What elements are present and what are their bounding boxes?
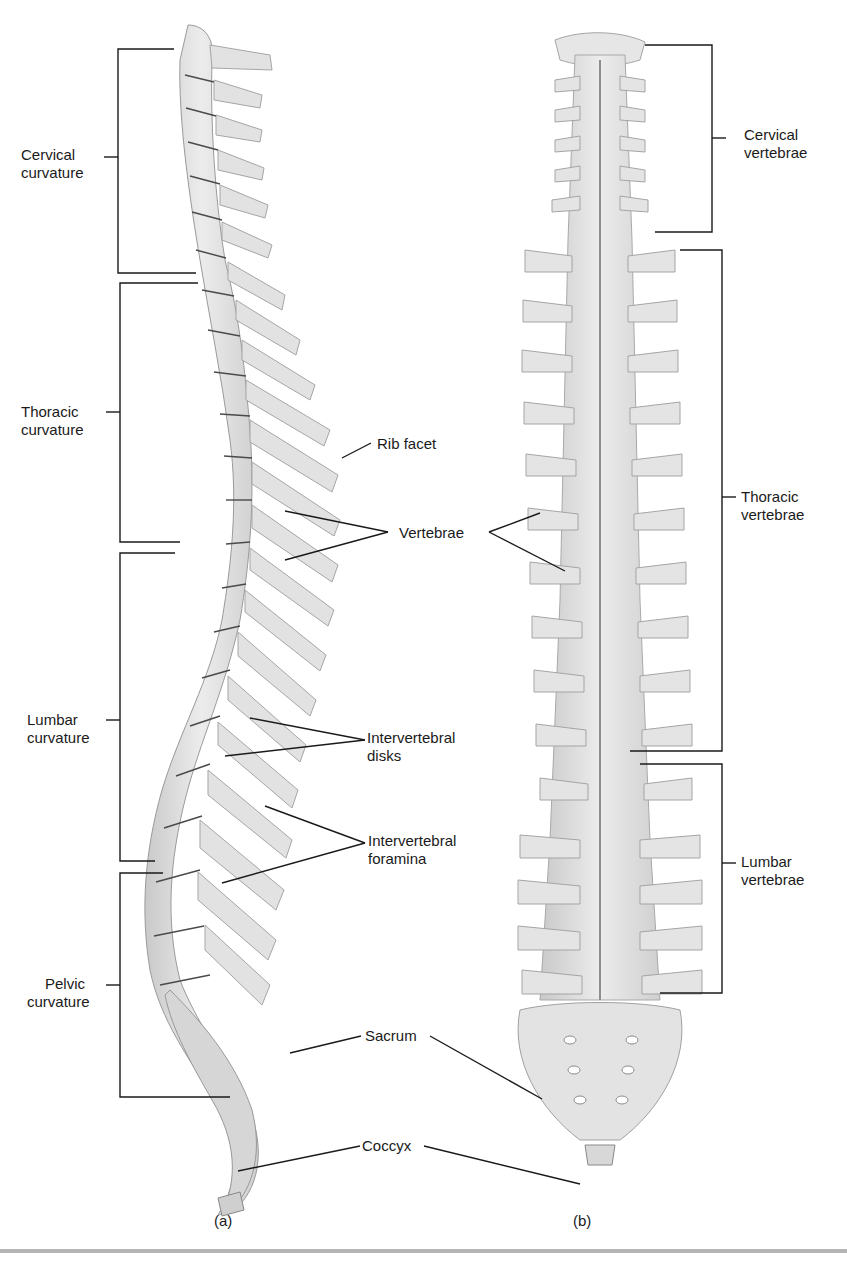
lateral-spine — [145, 25, 340, 1216]
label-line-1: Lumbar — [27, 711, 90, 729]
label-rib-facet: Rib facet — [377, 435, 436, 453]
label-line-2: curvature — [27, 729, 90, 747]
label-cervical-curvature: Cervical curvature — [21, 146, 84, 182]
label-line-2: foramina — [368, 850, 456, 868]
label-pelvic-curvature: Pelvic curvature — [27, 975, 90, 1011]
label-line-1: Intervertebral — [368, 832, 456, 850]
label-line-2: curvature — [21, 164, 84, 182]
panel-caption-a: (a) — [214, 1212, 232, 1230]
label-intervertebral-foramina: Intervertebral foramina — [368, 832, 456, 868]
label-thoracic-vertebrae: Thoracic vertebrae — [741, 488, 804, 524]
spine-illustration — [0, 0, 847, 1273]
label-line-1: Cervical — [21, 146, 84, 164]
label-line-1: Cervical — [744, 126, 807, 144]
label-intervertebral-disks: Intervertebral disks — [367, 729, 455, 765]
panel-caption-b: (b) — [573, 1212, 591, 1230]
label-thoracic-curvature: Thoracic curvature — [21, 403, 84, 439]
label-lumbar-vertebrae: Lumbar vertebrae — [741, 853, 804, 889]
label-line-2: vertebrae — [744, 144, 807, 162]
label-coccyx: Coccyx — [362, 1137, 411, 1155]
label-line-1: Intervertebral — [367, 729, 455, 747]
posterior-spine — [518, 33, 702, 1165]
bottom-divider — [0, 1249, 847, 1253]
label-line-2: curvature — [27, 993, 90, 1011]
label-line-1: Thoracic — [741, 488, 804, 506]
label-line-2: vertebrae — [741, 506, 804, 524]
label-line-2: vertebrae — [741, 871, 804, 889]
label-line-1: Lumbar — [741, 853, 804, 871]
label-line-2: curvature — [21, 421, 84, 439]
label-vertebrae: Vertebrae — [399, 524, 464, 542]
label-sacrum: Sacrum — [365, 1027, 417, 1045]
label-cervical-vertebrae: Cervical vertebrae — [744, 126, 807, 162]
label-line-1: Thoracic — [21, 403, 84, 421]
label-line-2: disks — [367, 747, 455, 765]
label-line-1: Pelvic — [27, 975, 90, 993]
label-lumbar-curvature: Lumbar curvature — [27, 711, 90, 747]
